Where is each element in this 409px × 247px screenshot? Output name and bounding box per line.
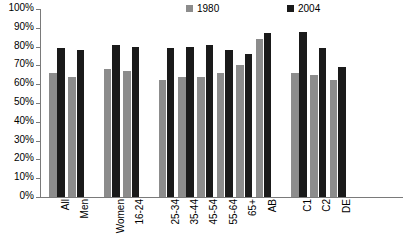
- x-axis-line: [40, 197, 403, 198]
- x-tick-label: All: [61, 199, 71, 210]
- y-tick-label: 20%: [14, 152, 34, 164]
- bar: [236, 65, 244, 197]
- y-tick: 0%: [40, 197, 41, 198]
- x-tick-label: 16-24: [135, 199, 145, 225]
- bar-series-group: [41, 9, 403, 197]
- y-tick-mark: [36, 9, 40, 10]
- y-tick-label: 10%: [14, 171, 34, 183]
- y-tick-label: 40%: [14, 115, 34, 127]
- bar: [256, 39, 264, 197]
- x-tick-label: Men: [80, 199, 90, 218]
- y-tick-mark: [36, 28, 40, 29]
- bar: [104, 69, 112, 197]
- y-tick-mark: [36, 47, 40, 48]
- bar: [178, 77, 186, 197]
- y-tick-mark: [36, 178, 40, 179]
- bar: [197, 77, 205, 197]
- y-tick-mark: [36, 65, 40, 66]
- y-tick-mark: [36, 122, 40, 123]
- y-tick-label: 90%: [14, 21, 34, 33]
- bar: [159, 80, 167, 197]
- bar: [319, 48, 327, 197]
- x-tick-label: 45-54: [209, 199, 219, 225]
- x-axis-labels: AllMenWomen16-2425-3435-4445-5455-6465+A…: [41, 199, 403, 247]
- y-tick-label: 0%: [20, 190, 34, 202]
- y-tick-label: 60%: [14, 77, 34, 89]
- bar: [206, 45, 214, 197]
- y-tick-mark: [36, 141, 40, 142]
- bar: [123, 71, 131, 197]
- y-tick-label: 30%: [14, 134, 34, 146]
- y-tick-label: 50%: [14, 96, 34, 108]
- x-tick-label: 25-34: [171, 199, 181, 225]
- y-tick-label: 80%: [14, 40, 34, 52]
- x-tick-label: 55-64: [229, 199, 239, 225]
- y-tick-mark: [36, 103, 40, 104]
- bar: [245, 54, 253, 197]
- x-tick-label: 35-44: [190, 199, 200, 225]
- bar: [299, 32, 307, 197]
- x-tick-label: AB: [268, 199, 278, 212]
- bar: [57, 48, 65, 197]
- bar: [186, 47, 194, 197]
- bar-chart: 1980 2004 100%90%80%70%60%50%40%30%20%10…: [0, 0, 409, 247]
- x-tick-label: Women: [116, 199, 126, 233]
- bar: [112, 45, 120, 197]
- y-tick-mark: [36, 197, 40, 198]
- bar: [291, 73, 299, 197]
- y-tick-mark: [36, 84, 40, 85]
- bar: [68, 77, 76, 197]
- y-tick-label: 70%: [14, 58, 34, 70]
- bar: [330, 80, 338, 197]
- x-tick-label: C2: [322, 199, 332, 212]
- x-tick-label: DE: [342, 199, 352, 213]
- y-tick-mark: [36, 159, 40, 160]
- bar: [310, 75, 318, 197]
- bar: [217, 73, 225, 197]
- bar: [49, 73, 57, 197]
- x-tick-label: C1: [303, 199, 313, 212]
- x-tick-label: 65+: [248, 199, 258, 216]
- bar: [167, 48, 175, 197]
- plot-area: 100%90%80%70%60%50%40%30%20%10%0%: [40, 9, 403, 197]
- y-tick-label: 100%: [8, 2, 34, 14]
- bar: [338, 67, 346, 197]
- bar: [225, 50, 233, 197]
- bar: [132, 47, 140, 197]
- bar: [264, 33, 272, 197]
- bar: [77, 50, 85, 197]
